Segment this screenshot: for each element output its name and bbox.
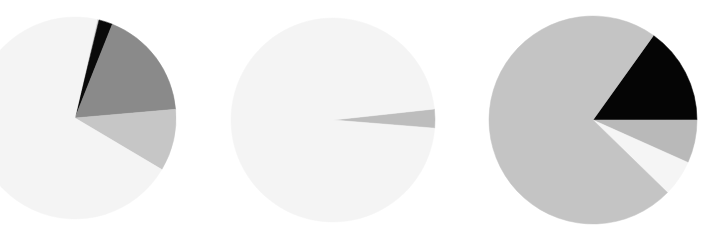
pie-chart-2 [231,18,435,222]
pie-chart-3 [489,16,697,224]
pie-chart-1 [0,17,176,219]
pie-chart-svg [0,0,728,239]
pie-charts-canvas [0,0,728,239]
